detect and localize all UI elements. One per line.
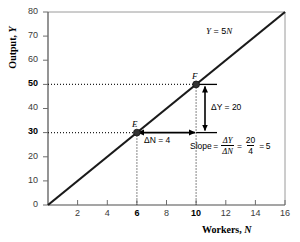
y-tick-label-60: 60 [18,54,38,64]
y-tick-label-50: 50 [18,78,38,88]
slope-fraction-numeric: 20 4 [245,136,256,155]
slope-numerator-value: 20 [245,136,256,145]
slope-denominator-symbol: ΔN [221,145,234,155]
slope-equals-3: = [259,141,264,151]
slope-equals-2: = [237,141,242,151]
y-tick-label-0: 0 [18,199,38,209]
chart-canvas [0,0,300,242]
slope-formula: Slope = ΔY ΔN = 20 4 = 5 [190,136,271,155]
production-function-line [48,12,285,205]
slope-text: Slope [190,141,212,151]
equation-eq: = 5 [211,26,226,36]
y-axis-title: Output, Y [7,18,18,78]
y-tick-label-20: 20 [18,151,38,161]
data-point-f [193,81,200,88]
slope-fraction-symbolic: ΔY ΔN [221,136,234,155]
x-tick-label-4: 4 [97,208,117,218]
x-tick-label-6: 6 [127,208,147,218]
y-axis-symbol: Y [7,26,18,32]
delta-n-label: ΔN = 4 [144,135,170,145]
y-tick-label-40: 40 [18,102,38,112]
x-axis-symbol: N [244,224,251,235]
production-function-chart: Output, Y Workers, N 80 70 60 50 40 30 2… [0,0,300,242]
y-axis-ticks [43,12,48,205]
slope-result-value: 5 [266,141,271,151]
slope-denominator-value: 4 [247,145,254,155]
x-tick-label-16: 16 [275,208,295,218]
delta-y-label: ΔY = 20 [211,102,241,112]
x-tick-label-12: 12 [216,208,236,218]
x-tick-label-8: 8 [157,208,177,218]
x-tick-label-2: 2 [68,208,88,218]
x-tick-label-14: 14 [245,208,265,218]
y-tick-label-80: 80 [18,6,38,16]
y-tick-label-70: 70 [18,30,38,40]
x-axis-ticks [78,200,285,205]
x-axis-title-text: Workers, [202,224,244,235]
slope-equals-1: = [213,141,218,151]
y-axis-title-text: Output, [7,33,18,69]
y-tick-label-30: 30 [18,126,38,136]
equation-label: Y = 5N [206,26,232,36]
x-tick-label-10: 10 [186,208,206,218]
x-axis-title: Workers, N [202,224,251,235]
data-point-e [134,129,141,136]
equation-rhs: N [226,26,232,36]
y-tick-label-10: 10 [18,175,38,185]
slope-numerator-symbol: ΔY [222,136,234,145]
point-label-e: E [132,119,138,129]
point-label-f: F [192,71,198,81]
